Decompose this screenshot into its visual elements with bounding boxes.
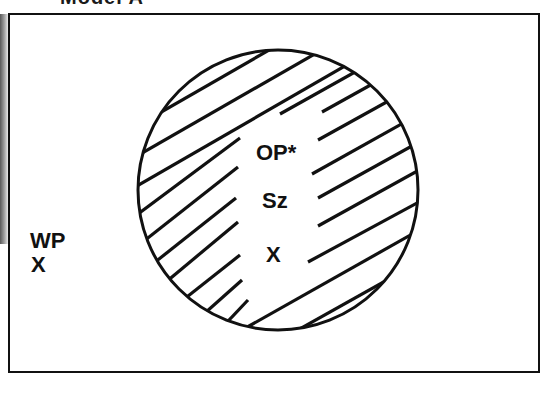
label-sz: Sz: [262, 190, 288, 212]
label-x-outside: X: [31, 254, 46, 276]
label-x-inside: X: [266, 244, 281, 266]
label-op-star: OP*: [256, 142, 296, 164]
label-wp: WP: [30, 230, 65, 252]
